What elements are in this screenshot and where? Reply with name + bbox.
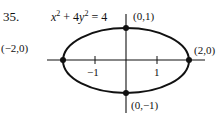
eq-y-exp: 2: [84, 9, 88, 18]
label-top-point: (0,1): [133, 11, 154, 22]
label-bottom-point: (0,−1): [131, 100, 158, 111]
label-right-point: (2,0): [194, 45, 215, 56]
point-left: [60, 57, 66, 63]
ellipse-figure: 35. x2 + 4y2 = 4 (0,1) (2,0) (−2,0) (0,−…: [0, 0, 220, 118]
point-right: [186, 57, 192, 63]
equation-label: x2 + 4y2 = 4: [51, 10, 107, 23]
problem-number: 35.: [3, 10, 19, 23]
tick-label-pos-one: 1: [154, 67, 160, 78]
point-top: [123, 25, 129, 31]
label-left-point: (−2,0): [1, 43, 28, 54]
ellipse-plot: [0, 0, 220, 118]
eq-plus: + 4: [63, 10, 79, 24]
eq-x-exp: 2: [56, 9, 60, 18]
point-bottom: [123, 90, 129, 96]
tick-label-neg-one: −1: [87, 67, 99, 78]
eq-rhs: = 4: [91, 10, 107, 24]
